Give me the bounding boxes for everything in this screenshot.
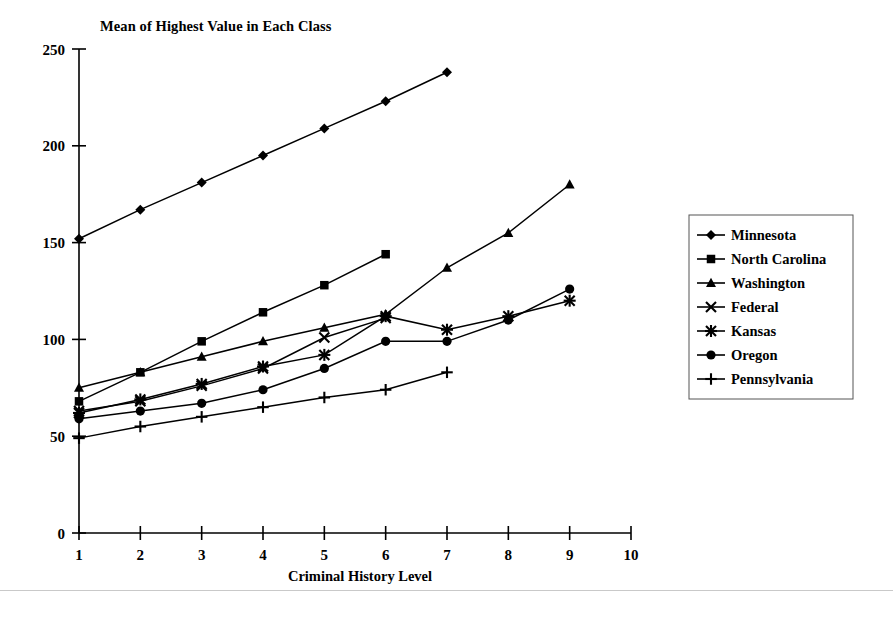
marker-star <box>257 361 269 373</box>
marker-star <box>441 324 453 336</box>
marker-plus <box>441 367 453 379</box>
y-tick-label: 200 <box>43 138 66 154</box>
x-tick-label: 7 <box>443 547 451 563</box>
marker-square <box>381 250 390 259</box>
legend-item-label: Kansas <box>731 323 776 339</box>
chart-title: Mean of Highest Value in Each Class <box>100 18 332 35</box>
marker-diamond <box>319 123 329 133</box>
marker-circle <box>74 414 83 423</box>
marker-star <box>380 310 392 322</box>
x-tick-label: 9 <box>566 547 574 563</box>
marker-star <box>134 393 146 405</box>
marker-star <box>705 325 717 337</box>
marker-circle <box>565 284 574 293</box>
marker-circle <box>442 337 451 346</box>
marker-circle <box>706 350 715 359</box>
x-tick-label: 3 <box>198 547 206 563</box>
marker-circle <box>258 385 267 394</box>
x-tick-label: 10 <box>624 547 639 563</box>
marker-triangle <box>503 228 513 237</box>
x-axis-label: Criminal History Level <box>0 568 720 585</box>
legend-item-label: North Carolina <box>731 251 827 267</box>
series-pennsylvania <box>73 367 453 444</box>
bottom-divider <box>0 590 893 591</box>
x-tick-label: 8 <box>505 547 513 563</box>
x-tick-label: 5 <box>321 547 329 563</box>
marker-circle <box>136 406 145 415</box>
marker-circle <box>381 337 390 346</box>
marker-square <box>320 281 329 290</box>
marker-square <box>707 255 716 264</box>
marker-circle <box>197 399 206 408</box>
marker-plus <box>319 392 331 404</box>
marker-square <box>259 308 268 317</box>
chart-legend: MinnesotaNorth CarolinaWashingtonFederal… <box>689 215 853 399</box>
y-tick-label: 250 <box>43 42 66 58</box>
marker-triangle <box>565 179 575 188</box>
marker-diamond <box>197 178 207 188</box>
marker-plus <box>380 384 392 396</box>
x-tick-label: 6 <box>382 547 390 563</box>
series-north-carolina <box>75 250 390 406</box>
marker-square <box>197 337 206 346</box>
marker-triangle <box>442 263 452 272</box>
marker-circle <box>320 364 329 373</box>
marker-star <box>196 378 208 390</box>
legend-item-label: Minnesota <box>731 227 797 243</box>
marker-diamond <box>442 67 452 77</box>
line-chart-plot: 05010015020025012345678910 MinnesotaNort… <box>0 0 893 618</box>
marker-plus <box>196 411 208 423</box>
legend-item-label: Oregon <box>731 347 777 363</box>
marker-star <box>318 349 330 361</box>
marker-diamond <box>258 150 268 160</box>
series-minnesota <box>74 67 452 243</box>
marker-x <box>319 332 329 342</box>
y-tick-label: 50 <box>50 429 65 445</box>
marker-plus <box>257 401 269 413</box>
chart-figure: Mean of Highest Value in Each Class 0501… <box>0 0 893 618</box>
legend-item-label: Pennsylvania <box>731 371 814 387</box>
x-tick-label: 1 <box>75 547 83 563</box>
y-tick-label: 0 <box>58 526 66 542</box>
marker-star <box>564 295 576 307</box>
x-tick-label: 4 <box>259 547 267 563</box>
x-tick-label: 2 <box>137 547 145 563</box>
marker-diamond <box>135 205 145 215</box>
y-tick-label: 100 <box>43 332 66 348</box>
axes: 05010015020025012345678910 <box>43 42 639 564</box>
marker-diamond <box>381 96 391 106</box>
marker-circle <box>504 315 513 324</box>
marker-square <box>75 397 84 406</box>
series-federal <box>74 313 391 416</box>
legend-item-label: Washington <box>731 275 805 291</box>
y-tick-label: 150 <box>43 235 66 251</box>
marker-plus <box>135 421 147 433</box>
marker-plus <box>73 432 85 444</box>
data-series <box>73 67 576 444</box>
legend-item-label: Federal <box>731 299 779 315</box>
